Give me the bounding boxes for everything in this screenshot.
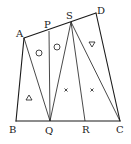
label-D: D bbox=[97, 5, 105, 16]
label-B: B bbox=[9, 124, 16, 135]
segment-SQ bbox=[50, 22, 71, 121]
segment-PQ bbox=[49, 31, 50, 121]
segment-DA bbox=[24, 13, 96, 38]
label-R: R bbox=[82, 124, 90, 135]
circle-marker bbox=[36, 50, 42, 56]
triangle-marker bbox=[26, 95, 32, 100]
label-P: P bbox=[44, 19, 51, 30]
label-A: A bbox=[15, 28, 24, 39]
label-Q: Q bbox=[45, 125, 53, 136]
circle-marker bbox=[54, 44, 60, 50]
segment-CD bbox=[96, 13, 120, 121]
triangle-down-marker bbox=[89, 42, 95, 47]
segment-AB bbox=[16, 38, 24, 121]
label-C: C bbox=[116, 124, 124, 135]
label-S: S bbox=[66, 10, 73, 21]
cross-marker bbox=[91, 89, 94, 92]
geometry-diagram: A P S D B Q R C bbox=[0, 0, 131, 144]
cross-marker bbox=[65, 89, 68, 92]
